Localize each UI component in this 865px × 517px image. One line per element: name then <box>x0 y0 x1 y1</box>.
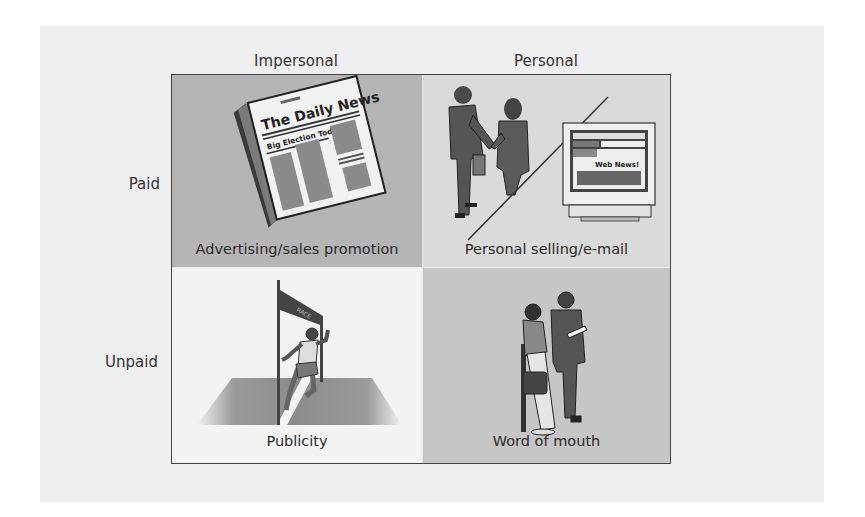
businessman-figure <box>449 86 495 218</box>
row-header-paid: Paid <box>100 175 160 193</box>
column-header-impersonal: Impersonal <box>171 52 421 70</box>
cell-word-of-mouth: Word of mouth <box>423 268 670 463</box>
cell-publicity: RACE Publicity <box>172 268 423 463</box>
column-header-personal: Personal <box>421 52 671 70</box>
businesswoman-figure <box>491 98 529 195</box>
handshake-and-computer-icon: Web News! <box>423 75 670 268</box>
man-figure <box>551 292 587 422</box>
cell-caption-word-of-mouth: Word of mouth <box>423 433 670 449</box>
svg-text:Web News!: Web News! <box>595 161 639 169</box>
cell-caption-publicity: Publicity <box>172 433 422 449</box>
newspaper-icon: The Daily News Big Election Today <box>172 75 423 268</box>
row-header-unpaid: Unpaid <box>98 353 158 371</box>
computer-monitor: Web News! <box>563 123 655 221</box>
cell-caption-advertising: Advertising/sales promotion <box>172 241 422 257</box>
cell-personal-selling: Web News! Personal selling/e-mail <box>423 75 670 268</box>
cell-advertising: The Daily News Big Election Today Advert… <box>172 75 423 268</box>
cell-caption-personal-selling: Personal selling/e-mail <box>423 241 670 257</box>
woman-figure <box>523 304 555 435</box>
promotion-matrix-grid: The Daily News Big Election Today Advert… <box>171 74 671 464</box>
